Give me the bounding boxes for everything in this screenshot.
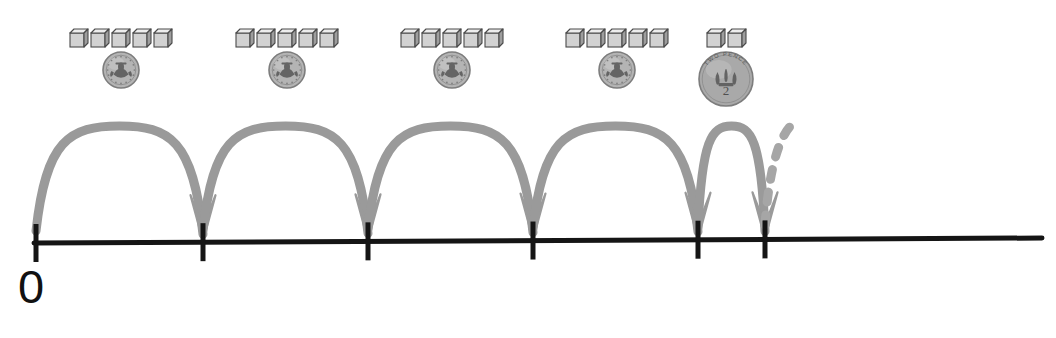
unit-cube-icon xyxy=(442,28,462,48)
five-pence-coin-icon xyxy=(102,51,140,89)
money-group-4 xyxy=(565,28,669,89)
money-group-5-coin: TWO PENCE2 xyxy=(698,51,754,107)
money-group-4-cube-row xyxy=(565,28,669,48)
unit-cube-icon xyxy=(69,28,89,48)
money-group-1-coin xyxy=(102,51,140,89)
number-line-zero-label: 0 xyxy=(18,263,44,310)
money-group-3-coin xyxy=(433,51,471,89)
jump-4-arc xyxy=(533,126,698,232)
unit-cube-icon xyxy=(256,28,276,48)
unit-cube-icon xyxy=(628,28,648,48)
five-pence-coin-icon xyxy=(598,51,636,89)
unit-cube-icon xyxy=(565,28,585,48)
money-group-5-cube-row xyxy=(706,28,747,48)
jump-1-arc xyxy=(36,126,203,234)
jump-2-arc xyxy=(203,126,368,233)
money-group-2-cube-row xyxy=(235,28,339,48)
money-group-3-cube-row xyxy=(400,28,504,48)
five-pence-coin-icon xyxy=(433,51,471,89)
jump-arcs-group xyxy=(36,120,800,241)
unit-cube-icon xyxy=(463,28,483,48)
money-group-1 xyxy=(69,28,173,89)
unit-cube-icon xyxy=(111,28,131,48)
jump-3-arc xyxy=(368,126,533,233)
unit-cube-icon xyxy=(298,28,318,48)
unit-cube-icon xyxy=(727,28,747,48)
two-pence-coin-icon: TWO PENCE2 xyxy=(698,51,754,107)
unit-cube-icon xyxy=(319,28,339,48)
number-line-group xyxy=(34,220,1042,262)
unit-cube-icon xyxy=(607,28,627,48)
money-group-4-coin xyxy=(598,51,636,89)
unit-cube-icon xyxy=(586,28,606,48)
unit-cube-icon xyxy=(153,28,173,48)
unit-cube-icon xyxy=(484,28,504,48)
jump-5-arc xyxy=(698,126,765,231)
unit-cube-icon xyxy=(90,28,110,48)
unit-cube-icon xyxy=(277,28,297,48)
unit-cube-icon xyxy=(235,28,255,48)
unit-cube-icon xyxy=(649,28,669,48)
number-line-axis xyxy=(34,238,1042,243)
five-pence-coin-icon xyxy=(268,51,306,89)
unit-cube-icon xyxy=(421,28,441,48)
illustration-canvas: TWO PENCE2 0 xyxy=(0,0,1056,338)
money-group-1-cube-row xyxy=(69,28,173,48)
unit-cube-icon xyxy=(706,28,726,48)
money-group-3 xyxy=(400,28,504,89)
money-group-2-coin xyxy=(268,51,306,89)
unit-cube-icon xyxy=(132,28,152,48)
money-group-2 xyxy=(235,28,339,89)
money-group-5: TWO PENCE2 xyxy=(698,28,754,107)
unit-cube-icon xyxy=(400,28,420,48)
